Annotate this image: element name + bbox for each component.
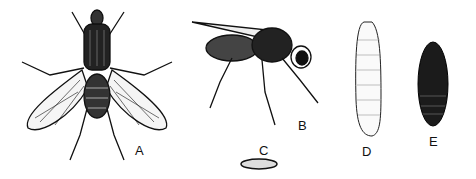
panel-label-c: C	[259, 143, 268, 158]
egg-illustration	[241, 159, 277, 169]
panel-label-a: A	[135, 143, 144, 158]
larva-illustration	[356, 22, 381, 136]
panel-label-d: D	[362, 144, 371, 159]
adult-fly-side-illustration	[192, 22, 318, 125]
panel-label-e: E	[429, 134, 438, 149]
panel-label-b: B	[298, 118, 307, 133]
pupa-illustration	[418, 42, 448, 126]
illustration	[0, 0, 476, 179]
adult-fly-dorsal-illustration	[22, 10, 172, 160]
